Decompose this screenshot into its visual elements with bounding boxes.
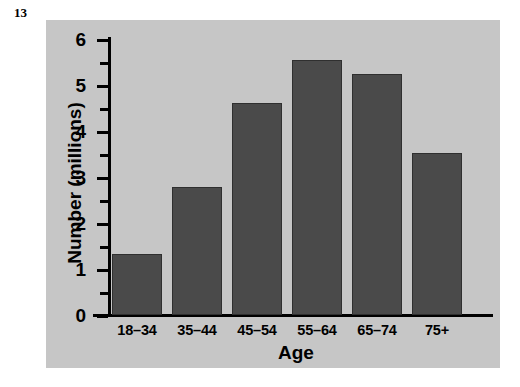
x-axis-tick-label: 75+ xyxy=(406,322,468,338)
bar xyxy=(412,153,462,315)
y-axis-major-tick xyxy=(97,85,108,88)
bar xyxy=(232,103,282,315)
y-axis-title: Number (millions) xyxy=(64,58,86,308)
x-axis-tick-label: 55–64 xyxy=(286,322,348,338)
bar xyxy=(112,254,162,315)
y-axis-major-tick xyxy=(97,223,108,226)
y-axis-major-tick xyxy=(97,315,108,318)
x-axis-tick-label: 18–34 xyxy=(106,322,168,338)
y-axis-major-tick xyxy=(97,177,108,180)
y-axis-major-tick xyxy=(97,269,108,272)
y-axis-tick-label: 0 xyxy=(60,306,86,325)
y-axis-minor-tick xyxy=(100,200,108,203)
y-axis-tick-label: 6 xyxy=(60,30,86,49)
x-axis-tick-label: 35–44 xyxy=(166,322,228,338)
bar xyxy=(292,60,342,315)
y-axis-minor-tick xyxy=(100,108,108,111)
y-axis-minor-tick xyxy=(100,62,108,65)
x-axis-tick-label: 45–54 xyxy=(226,322,288,338)
y-axis-minor-tick xyxy=(100,292,108,295)
y-axis-minor-tick xyxy=(100,154,108,157)
y-axis-major-tick xyxy=(97,131,108,134)
y-axis-line xyxy=(108,37,111,317)
figure-number: 13 xyxy=(14,5,27,21)
bar xyxy=(172,187,222,315)
x-axis-title: Age xyxy=(92,342,500,364)
chart-panel: 0123456 18–3435–4445–5455–6465–7475+ Age… xyxy=(46,20,500,368)
x-axis-tick-label: 65–74 xyxy=(346,322,408,338)
plot-area xyxy=(112,39,484,315)
bar xyxy=(352,74,402,315)
y-axis-major-tick xyxy=(97,39,108,42)
y-axis-minor-tick xyxy=(100,246,108,249)
